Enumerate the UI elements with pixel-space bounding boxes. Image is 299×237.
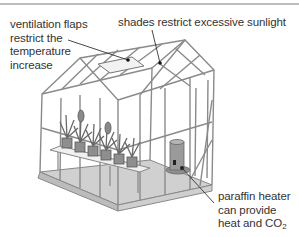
shades-label: shades restrict excessive sunlight	[118, 16, 286, 30]
ventilation-label-line: temperature	[10, 45, 90, 59]
paraffin-heater	[166, 140, 190, 175]
co2-subscript: 2	[282, 222, 286, 231]
ventilation-flap	[98, 57, 144, 73]
ventilation-label-line: restrict the	[10, 32, 90, 46]
heater-label: paraffin heater can provide heat and CO2	[218, 190, 298, 231]
heater-label-line: heat and CO2	[218, 217, 298, 231]
heater-label-line: can provide	[218, 204, 298, 218]
heater-label-text: heat and CO	[218, 217, 282, 229]
ventilation-label-line: increase	[10, 59, 90, 73]
ventilation-label-line: ventilation flaps	[10, 18, 90, 32]
ventilation-label: ventilation flaps restrict the temperatu…	[10, 18, 90, 72]
heater-label-line: paraffin heater	[218, 190, 298, 204]
